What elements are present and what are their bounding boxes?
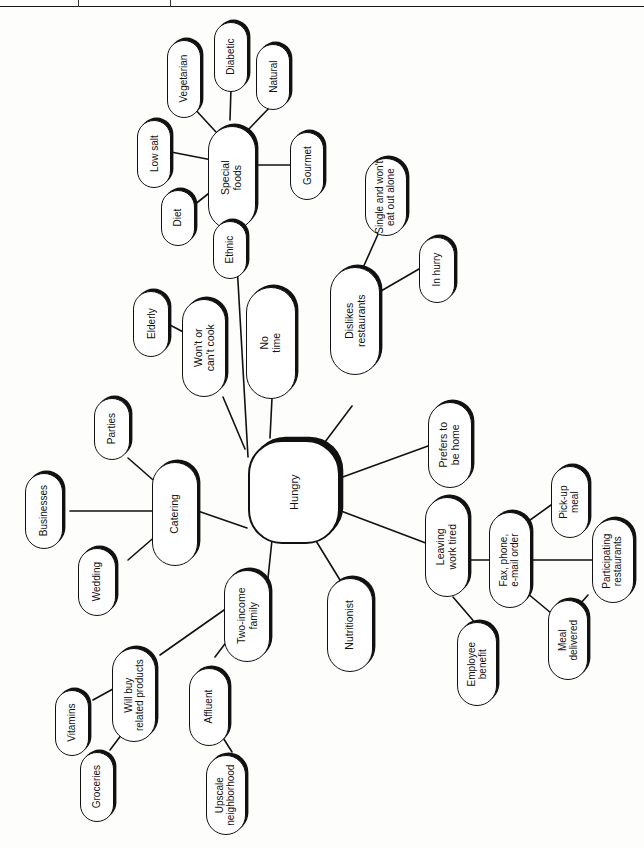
edge-hungry-wont-cant-cook xyxy=(223,397,245,449)
node-vitamins-label: Vitamins xyxy=(66,704,77,742)
node-diabetic-label: Diabetic xyxy=(225,39,236,75)
node-leaving-work-tired-label: Leavingwork tired xyxy=(435,524,459,570)
node-hungry[interactable]: Hungry xyxy=(248,440,340,544)
node-elderly[interactable]: Elderly xyxy=(133,291,169,357)
node-pick-up-meal-label: Pick-upmeal xyxy=(559,485,581,518)
node-parties[interactable]: Parties xyxy=(94,398,130,460)
node-businesses-label: Businesses xyxy=(38,485,49,536)
edge-hungry-leaving-work-tired xyxy=(341,511,431,545)
node-affluent[interactable]: Affluent xyxy=(189,668,229,746)
node-hungry-label: Hungry xyxy=(288,474,300,509)
node-diet[interactable]: Diet xyxy=(161,190,195,246)
edge-special-foods-diabetic xyxy=(230,88,231,120)
node-fax-phone-email[interactable]: Fax, phone,e-mail order xyxy=(489,512,531,608)
node-upscale-neighborhood[interactable]: Upscaleneighborhood xyxy=(206,755,246,835)
node-vegetarian-label: Vegetarian xyxy=(178,55,189,103)
node-in-hurry-label: In hurry xyxy=(431,253,442,287)
node-natural-label: Natural xyxy=(267,61,278,93)
node-two-income-family-label: Two-incomefamily xyxy=(235,588,259,645)
node-catering[interactable]: Catering xyxy=(152,462,198,566)
node-wedding[interactable]: Wedding xyxy=(78,548,116,616)
edge-hungry-two-income-family xyxy=(268,540,272,578)
node-in-hurry[interactable]: In hurry xyxy=(419,237,455,303)
edge-hungry-no-time xyxy=(270,398,272,438)
node-diabetic[interactable]: Diabetic xyxy=(214,22,248,92)
edge-dislikes-single-wont-eat-out xyxy=(362,232,379,270)
node-low-salt[interactable]: Low salt xyxy=(137,120,171,188)
node-special-foods-label: Specialfoods xyxy=(220,161,244,195)
node-will-buy-related-label: Will buyrelated products xyxy=(123,659,145,731)
node-meal-delivered-label: Mealdelivered xyxy=(557,620,579,661)
node-dislikes-restaurants-label: Dislikesrestaurants xyxy=(343,295,367,348)
node-meal-delivered[interactable]: Mealdelivered xyxy=(548,600,588,680)
node-businesses[interactable]: Businesses xyxy=(25,473,63,549)
node-wedding-label: Wedding xyxy=(91,562,102,601)
node-leaving-work-tired[interactable]: Leavingwork tired xyxy=(425,497,469,597)
edge-hungry-catering xyxy=(195,510,247,528)
node-catering-label: Catering xyxy=(169,494,181,534)
edge-hungry-dislikes-restaurants xyxy=(322,406,352,446)
node-no-time-label: Notime xyxy=(259,333,283,353)
edge-dislikes-in-hurry xyxy=(381,269,419,291)
node-fax-phone-email-label: Fax, phone,e-mail order xyxy=(499,533,521,586)
node-natural[interactable]: Natural xyxy=(256,44,290,110)
node-ethnic-label: Ethnic xyxy=(224,236,235,264)
node-single-wont-eat-out-label: Single and won'teat out alone xyxy=(375,160,397,233)
node-upscale-neighborhood-label: Upscaleneighborhood xyxy=(215,764,237,825)
node-single-wont-eat-out[interactable]: Single and won'teat out alone xyxy=(365,158,407,236)
node-gourmet-label: Gourmet xyxy=(301,147,312,186)
node-will-buy-related[interactable]: Will buyrelated products xyxy=(112,648,156,742)
node-dislikes-restaurants[interactable]: Dislikesrestaurants xyxy=(330,267,380,375)
node-nutritionist-label: Nutritionist xyxy=(344,600,356,650)
node-employee-benefit-label: Employeebenefit xyxy=(466,642,488,686)
node-affluent-label: Affluent xyxy=(203,690,214,724)
edge-hungry-nutritionist xyxy=(313,536,340,580)
edge-leaving-work-employee-benefit xyxy=(453,597,477,625)
node-ethnic[interactable]: Ethnic xyxy=(213,221,247,279)
node-diet-label: Diet xyxy=(172,209,183,227)
node-employee-benefit[interactable]: Employeebenefit xyxy=(457,622,497,706)
node-groceries[interactable]: Groceries xyxy=(80,752,114,822)
node-wont-cant-cook-label: Won't orcan't cook xyxy=(192,325,216,372)
node-prefers-be-home-label: Prefers tobe home xyxy=(438,422,462,468)
node-vegetarian[interactable]: Vegetarian xyxy=(167,40,201,118)
node-elderly-label: Elderly xyxy=(145,309,156,340)
node-nutritionist[interactable]: Nutritionist xyxy=(327,578,373,672)
page-canvas: Hungry Specialfoods Vegetarian Diabetic … xyxy=(0,0,644,848)
node-prefers-be-home[interactable]: Prefers tobe home xyxy=(428,402,472,488)
node-parties-label: Parties xyxy=(106,413,117,444)
node-pick-up-meal[interactable]: Pick-upmeal xyxy=(551,466,589,538)
node-groceries-label: Groceries xyxy=(91,765,102,808)
node-participating-restaurants[interactable]: Participatingrestaurants xyxy=(592,519,634,603)
mindmap-canvas: Hungry Specialfoods Vegetarian Diabetic … xyxy=(0,0,644,848)
node-low-salt-label: Low salt xyxy=(148,136,159,173)
node-wont-cant-cook[interactable]: Won't orcan't cook xyxy=(182,299,226,397)
edge-special-foods-low-salt xyxy=(171,152,212,160)
node-participating-restaurants-label: Participatingrestaurants xyxy=(602,533,624,588)
node-no-time[interactable]: Notime xyxy=(246,287,296,399)
edge-hungry-prefers-be-home xyxy=(340,446,428,478)
node-vitamins[interactable]: Vitamins xyxy=(55,690,89,756)
node-special-foods[interactable]: Specialfoods xyxy=(208,126,256,230)
node-two-income-family[interactable]: Two-incomefamily xyxy=(224,570,270,662)
node-gourmet[interactable]: Gourmet xyxy=(290,132,324,200)
